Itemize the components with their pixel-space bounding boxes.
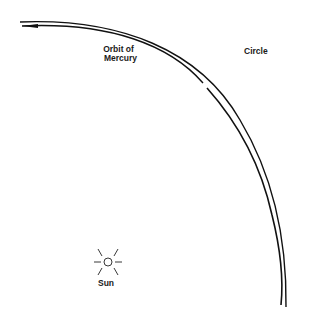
circle-label: Circle	[244, 47, 268, 56]
orbit-arrow-icon	[22, 24, 38, 28]
orbit-label-line2: Mercury	[104, 54, 137, 63]
orbit-label: Orbit of Mercury	[100, 45, 137, 63]
mercury-orbit-curve-b	[207, 88, 282, 305]
orbit-diagram: Orbit of Mercury Circle Sun	[0, 0, 311, 315]
circle-curve	[20, 22, 286, 307]
sun-icon	[94, 249, 122, 275]
sun-label: Sun	[98, 279, 114, 288]
